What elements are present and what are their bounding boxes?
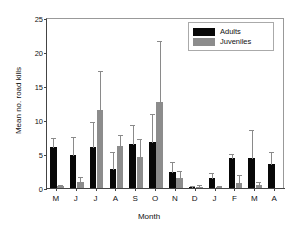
legend-swatch-juveniles: [193, 38, 215, 46]
bar-juveniles-4: [137, 157, 144, 188]
y-tick-label-10: 10: [35, 117, 43, 126]
error-cap-juveniles-2: [98, 71, 103, 72]
x-tick-mark-4: [135, 188, 136, 191]
y-tick-label-5: 5: [39, 151, 43, 160]
x-tick-mark-5: [155, 188, 156, 191]
error-bar-adults-3: [113, 152, 114, 170]
x-tick-label-2: J: [94, 194, 98, 203]
bar-juveniles-5: [156, 102, 163, 188]
bar-adults-3: [110, 169, 117, 188]
error-cap-juveniles-0: [58, 185, 63, 186]
error-cap-adults-11: [269, 152, 274, 153]
error-bar-adults-4: [133, 125, 134, 145]
bar-adults-11: [268, 164, 275, 188]
x-tick-label-1: J: [74, 194, 78, 203]
y-tick-mark-10: [44, 121, 47, 122]
y-axis-label: Mean no. road kills: [14, 31, 23, 171]
x-tick-label-8: J: [213, 194, 217, 203]
y-tick-label-20: 20: [35, 49, 43, 58]
error-cap-juveniles-10: [256, 182, 261, 183]
error-cap-adults-1: [71, 137, 76, 138]
x-axis-label: Month: [0, 212, 298, 221]
error-bar-adults-10: [252, 130, 253, 159]
x-tick-mark-3: [115, 188, 116, 191]
error-cap-adults-4: [130, 125, 135, 126]
error-cap-adults-2: [90, 122, 95, 123]
x-tick-mark-10: [254, 188, 255, 191]
x-tick-label-3: A: [113, 194, 118, 203]
error-cap-adults-10: [249, 130, 254, 131]
error-bar-juveniles-3: [120, 135, 121, 147]
error-bar-adults-0: [53, 138, 54, 148]
x-tick-mark-8: [215, 188, 216, 191]
bar-adults-6: [169, 172, 176, 188]
error-cap-adults-3: [110, 152, 115, 153]
error-cap-adults-8: [209, 173, 214, 174]
error-bar-adults-2: [93, 122, 94, 147]
x-tick-label-4: S: [133, 194, 138, 203]
x-tick-label-5: O: [152, 194, 158, 203]
x-tick-label-9: F: [232, 194, 237, 203]
error-cap-juveniles-3: [118, 135, 123, 136]
y-tick-label-25: 25: [35, 15, 43, 24]
y-tick-mark-25: [44, 19, 47, 20]
error-bar-juveniles-6: [180, 171, 181, 180]
bar-adults-9: [229, 158, 236, 188]
error-cap-adults-7: [190, 186, 195, 187]
x-axis-line: [46, 188, 285, 189]
error-cap-adults-0: [51, 138, 56, 139]
error-cap-juveniles-7: [197, 185, 202, 186]
legend-label-juveniles: Juveniles: [220, 37, 251, 46]
legend-swatch-adults: [193, 28, 215, 36]
error-cap-adults-5: [150, 114, 155, 115]
x-tick-label-6: N: [172, 194, 178, 203]
legend-label-adults: Adults: [220, 27, 241, 36]
legend-item-adults: Adults: [193, 27, 269, 36]
y-tick-mark-5: [44, 155, 47, 156]
bar-juveniles-6: [176, 178, 183, 188]
chart-legend: Adults Juveniles: [188, 22, 274, 51]
bar-adults-4: [129, 144, 136, 188]
x-tick-mark-2: [96, 188, 97, 191]
error-bar-juveniles-9: [239, 175, 240, 183]
road-kills-bar-chart: Mean no. road kills 0510152025 Month Adu…: [0, 0, 298, 232]
x-tick-label-11: A: [271, 194, 276, 203]
error-cap-juveniles-1: [78, 177, 83, 178]
x-tick-mark-7: [195, 188, 196, 191]
x-tick-mark-6: [175, 188, 176, 191]
error-bar-adults-6: [172, 162, 173, 174]
error-bar-adults-11: [271, 152, 272, 165]
error-bar-adults-1: [73, 137, 74, 156]
x-tick-label-0: M: [53, 194, 60, 203]
legend-item-juveniles: Juveniles: [193, 37, 269, 46]
bar-juveniles-2: [97, 110, 104, 188]
x-tick-mark-11: [274, 188, 275, 191]
error-bar-juveniles-5: [160, 41, 161, 103]
y-tick-mark-0: [44, 189, 47, 190]
bar-adults-2: [90, 147, 97, 188]
bar-adults-5: [149, 142, 156, 188]
bar-adults-1: [70, 155, 77, 188]
error-cap-juveniles-9: [237, 175, 242, 176]
x-tick-mark-0: [56, 188, 57, 191]
x-tick-mark-9: [234, 188, 235, 191]
x-tick-mark-1: [76, 188, 77, 191]
x-tick-label-10: M: [251, 194, 258, 203]
error-bar-adults-5: [152, 114, 153, 143]
error-cap-adults-9: [229, 154, 234, 155]
error-cap-juveniles-5: [157, 41, 162, 42]
y-tick-label-0: 0: [39, 185, 43, 194]
error-bar-juveniles-2: [100, 71, 101, 110]
error-bar-juveniles-4: [140, 139, 141, 159]
x-tick-label-7: D: [192, 194, 198, 203]
bar-juveniles-3: [117, 146, 124, 188]
error-cap-juveniles-4: [137, 139, 142, 140]
y-tick-mark-15: [44, 87, 47, 88]
y-tick-label-15: 15: [35, 83, 43, 92]
error-cap-juveniles-6: [177, 171, 182, 172]
y-tick-mark-20: [44, 53, 47, 54]
bar-adults-8: [209, 178, 216, 188]
bar-adults-10: [248, 158, 255, 188]
error-cap-adults-6: [170, 162, 175, 163]
bar-adults-0: [50, 147, 57, 188]
